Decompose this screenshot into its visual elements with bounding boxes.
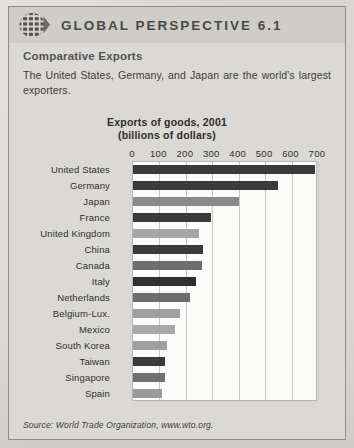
category-label: United States <box>51 164 110 175</box>
bar-row: Spain <box>9 385 345 401</box>
category-label: Taiwan <box>80 356 110 367</box>
bar <box>133 357 165 366</box>
bar <box>133 213 211 222</box>
x-tick-label: 400 <box>229 148 246 159</box>
category-label: Spain <box>85 388 110 399</box>
bar <box>133 293 190 302</box>
bar-row: Singapore <box>9 369 345 385</box>
bar <box>133 229 199 238</box>
category-label: Singapore <box>65 372 110 383</box>
x-axis-ticks: 0100200300400500600700 <box>9 148 345 160</box>
bar-row: Italy <box>9 273 345 289</box>
bar-row: Belgium-Lux. <box>9 305 345 321</box>
x-tick-label: 600 <box>282 148 299 159</box>
page-root: GLOBAL PERSPECTIVE 6.1 Comparative Expor… <box>0 0 354 448</box>
intro-body: The United States, Germany, and Japan ar… <box>23 68 331 98</box>
x-tick-label: 200 <box>176 148 193 159</box>
category-label: Italy <box>92 276 110 287</box>
chart-title-block: Exports of goods, 2001 (billions of doll… <box>9 116 345 142</box>
bar <box>133 341 167 350</box>
bar <box>133 389 162 398</box>
category-label: United Kingdom <box>40 228 110 239</box>
bar <box>133 181 278 190</box>
bar <box>133 261 202 270</box>
bar <box>133 309 180 318</box>
bar <box>133 165 315 174</box>
intro-heading: Comparative Exports <box>23 50 331 62</box>
globe-grid-icon <box>17 11 51 39</box>
category-label: Japan <box>83 196 110 207</box>
category-label: South Korea <box>56 340 110 351</box>
exhibit-header: GLOBAL PERSPECTIVE 6.1 <box>9 7 345 43</box>
x-tick-label: 500 <box>256 148 273 159</box>
bar-row: France <box>9 209 345 225</box>
category-label: Germany <box>70 180 110 191</box>
bar-row: Netherlands <box>9 289 345 305</box>
x-tick-label: 0 <box>129 148 135 159</box>
exhibit-frame: GLOBAL PERSPECTIVE 6.1 Comparative Expor… <box>8 6 346 440</box>
category-label: Canada <box>76 260 110 271</box>
bar-row: Germany <box>9 177 345 193</box>
x-tick-label: 100 <box>150 148 167 159</box>
x-tick-label: 700 <box>309 148 326 159</box>
bar <box>133 245 203 254</box>
bar-row: United Kingdom <box>9 225 345 241</box>
bar-chart: 0100200300400500600700 United StatesGerm… <box>9 148 345 410</box>
source-note: Source: World Trade Organization, www.wt… <box>23 420 214 430</box>
bar-row: China <box>9 241 345 257</box>
bar-row: United States <box>9 161 345 177</box>
category-label: Belgium-Lux. <box>53 308 110 319</box>
bar <box>133 325 175 334</box>
category-label: France <box>80 212 110 223</box>
bar-row: Japan <box>9 193 345 209</box>
chart-subtitle: (billions of dollars) <box>9 129 325 142</box>
x-tick-label: 300 <box>203 148 220 159</box>
bar-row: Mexico <box>9 321 345 337</box>
chart-title: Exports of goods, 2001 <box>9 116 325 129</box>
bar-row: Canada <box>9 257 345 273</box>
bar <box>133 373 165 382</box>
bar <box>133 197 239 206</box>
bar <box>133 277 196 286</box>
category-label: Mexico <box>79 324 110 335</box>
category-label: China <box>84 244 110 255</box>
page-title: GLOBAL PERSPECTIVE 6.1 <box>61 18 283 33</box>
intro-block: Comparative Exports The United States, G… <box>9 43 345 102</box>
bar-row: South Korea <box>9 337 345 353</box>
category-label: Netherlands <box>57 292 110 303</box>
bar-rows: United StatesGermanyJapanFranceUnited Ki… <box>9 161 345 401</box>
bar-row: Taiwan <box>9 353 345 369</box>
